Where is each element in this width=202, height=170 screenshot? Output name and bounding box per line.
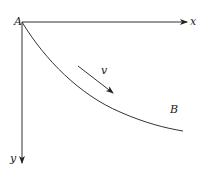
origin-label-A: A (13, 15, 22, 28)
x-axis-label: x (190, 15, 197, 28)
end-point-label-B: B (169, 103, 178, 116)
coordinate-diagram: A x y v B (0, 0, 202, 170)
velocity-label: v (101, 64, 108, 77)
velocity-arrow (78, 66, 113, 93)
y-axis-label: y (9, 152, 17, 165)
